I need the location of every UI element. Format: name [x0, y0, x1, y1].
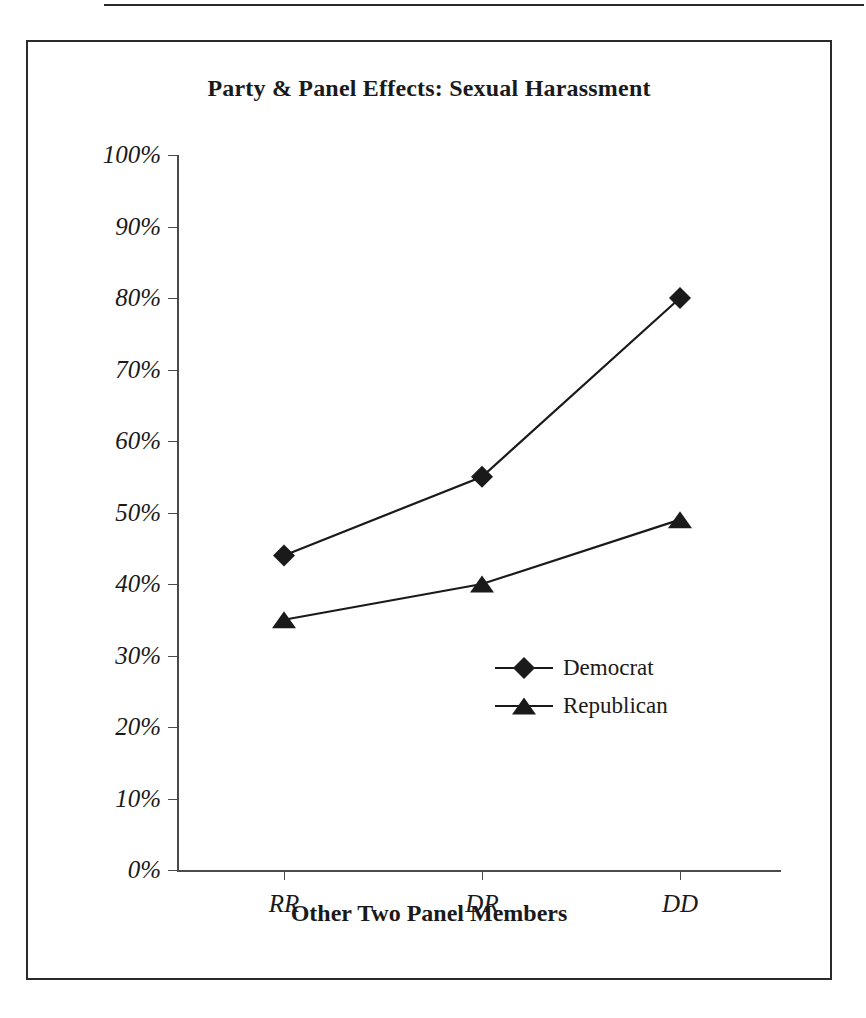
series-line — [284, 298, 680, 555]
chart-title: Party & Panel Effects: Sexual Harassment — [28, 75, 830, 102]
series-line — [284, 520, 680, 620]
triangle-marker — [272, 611, 296, 628]
y-axis-tick — [168, 799, 177, 800]
y-axis-tick-label: 60% — [115, 427, 161, 455]
y-axis-tick-label: 70% — [115, 356, 161, 384]
plot-area: 100%90%80%70%60%50%40%30%20%10%0% RRDRDD — [179, 155, 779, 870]
y-axis-tick-label: 10% — [115, 785, 161, 813]
chart-legend: DemocratRepublican — [493, 649, 668, 725]
y-axis-tick-label: 0% — [128, 856, 161, 884]
triangle-marker — [470, 576, 494, 593]
y-axis-tick-labels: 100%90%80%70%60%50%40%30%20%10%0% — [28, 155, 179, 871]
x-axis-tick — [482, 871, 483, 880]
y-axis-tick-label: 100% — [103, 141, 161, 169]
legend-item: Republican — [493, 687, 668, 725]
y-axis-tick-label: 90% — [115, 213, 161, 241]
data-series-layer — [179, 155, 779, 871]
legend-item: Democrat — [493, 649, 668, 687]
figure-frame: Party & Panel Effects: Sexual Harassment… — [26, 40, 832, 980]
y-axis-tick — [168, 298, 177, 299]
legend-label: Republican — [563, 687, 668, 725]
y-axis-tick-label: 20% — [115, 713, 161, 741]
y-axis-tick — [168, 513, 177, 514]
diamond-marker — [513, 657, 535, 679]
y-axis-tick-label: 50% — [115, 499, 161, 527]
y-axis-tick-label: 40% — [115, 570, 161, 598]
triangle-marker — [668, 511, 692, 528]
legend-label: Democrat — [563, 649, 654, 687]
y-axis-tick — [168, 656, 177, 657]
diamond-marker — [273, 544, 295, 566]
y-axis-tick — [168, 870, 177, 871]
page-top-rule — [104, 4, 864, 6]
x-axis-tick — [680, 871, 681, 880]
y-axis-tick — [168, 370, 177, 371]
legend-marker-sample — [493, 691, 555, 721]
y-axis-tick — [168, 727, 177, 728]
y-axis-tick-label: 80% — [115, 284, 161, 312]
y-axis-tick — [168, 584, 177, 585]
y-axis-tick — [168, 441, 177, 442]
x-axis-title: Other Two Panel Members — [28, 900, 830, 927]
y-axis-tick — [168, 227, 177, 228]
y-axis-tick-label: 30% — [115, 642, 161, 670]
legend-marker-sample — [493, 653, 555, 683]
y-axis-tick — [168, 155, 177, 156]
x-axis-tick — [284, 871, 285, 880]
series-republican — [272, 511, 692, 628]
series-democrat — [273, 287, 691, 566]
